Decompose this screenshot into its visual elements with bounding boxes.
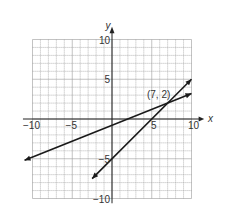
y-tick-label: 10 bbox=[99, 35, 111, 46]
y-tick-label: 5 bbox=[104, 74, 110, 85]
arrowhead-icon bbox=[185, 93, 192, 98]
coordinate-plane: −10−5510105−5−10xy(7, 2) bbox=[0, 0, 227, 209]
labels: −10−5510105−5−10xy(7, 2) bbox=[23, 20, 214, 204]
y-tick-label: −10 bbox=[93, 194, 110, 205]
x-tick-label: −5 bbox=[66, 120, 78, 131]
y-tick-label: −5 bbox=[99, 154, 111, 165]
x-tick-label: 10 bbox=[188, 120, 200, 131]
y-axis-label: y bbox=[105, 20, 112, 31]
axes bbox=[23, 27, 204, 203]
arrowhead-icon bbox=[25, 156, 32, 161]
x-axis-arrow-icon bbox=[199, 117, 205, 122]
x-tick-label: −10 bbox=[23, 120, 40, 131]
x-tick-label: 5 bbox=[151, 120, 157, 131]
x-axis-label: x bbox=[207, 113, 214, 124]
intersection-label: (7, 2) bbox=[147, 89, 170, 100]
